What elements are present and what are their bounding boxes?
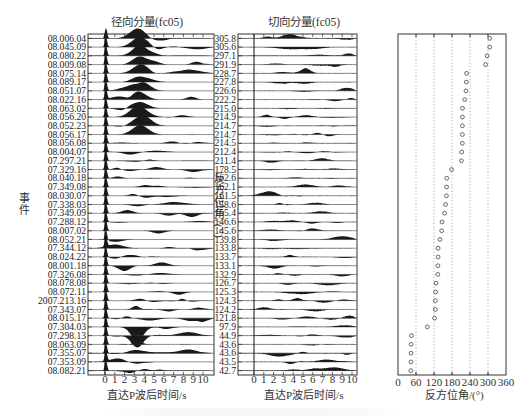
x-tick-label: 8 [330, 373, 336, 385]
x-tick-label: 0 [251, 373, 257, 385]
x-tick-label: 3 [281, 373, 287, 385]
x-tick-label: 5 [151, 373, 157, 385]
baz-tick-label: 60 [411, 376, 422, 388]
baz-x-axis-title: 反方位角/(°) [425, 386, 484, 402]
x-tick-label: 9 [339, 373, 345, 385]
x-tick-label: 2 [122, 373, 128, 385]
x-tick-label: 2 [271, 373, 277, 385]
x-tick-label: 10 [347, 373, 358, 385]
x-tick-label: 0 [102, 373, 108, 385]
x-tick-label: 1 [112, 373, 118, 385]
figure-canvas [0, 0, 532, 419]
x-tick-label: 8 [181, 373, 187, 385]
x-tick-label: 6 [161, 373, 167, 385]
x-tick-label: 3 [132, 373, 138, 385]
transverse-x-axis-title: 直达P波后时间/s [264, 386, 343, 402]
x-tick-label: 7 [171, 373, 177, 385]
x-tick-label: 4 [290, 373, 296, 385]
x-tick-label: 7 [320, 373, 326, 385]
radial-x-axis-title: 直达P波后时间/s [107, 386, 186, 402]
x-tick-label: 4 [141, 373, 147, 385]
x-tick-label: 6 [310, 373, 316, 385]
x-tick-label: 9 [190, 373, 196, 385]
x-tick-label: 1 [261, 373, 267, 385]
baz-tick-label: 360 [498, 376, 515, 388]
x-tick-label: 5 [300, 373, 306, 385]
figure-caption-faint [105, 408, 405, 416]
x-tick-label: 10 [198, 373, 209, 385]
baz-tick-label: 0 [395, 376, 401, 388]
